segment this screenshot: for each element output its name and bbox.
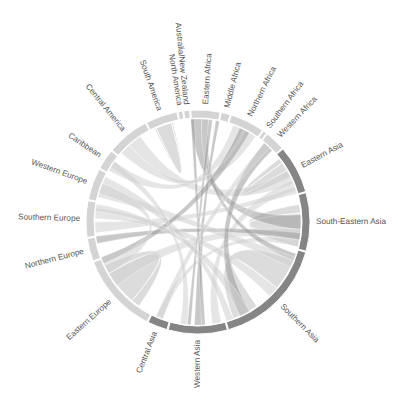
region-segment-north-america xyxy=(178,111,184,120)
region-label-eastern-asia: Eastern Asia xyxy=(300,140,345,170)
region-segment-southern-europe xyxy=(86,201,96,238)
region-label-caribbean: Caribbean xyxy=(67,131,104,160)
region-segment-eastern-africa xyxy=(191,110,220,120)
region-label-central-asia: Central Asia xyxy=(135,330,160,375)
region-segment-australia-new-zealand xyxy=(184,110,190,119)
region-label-southern-europe: Southern Europe xyxy=(18,212,81,223)
region-label-central-america: Central America xyxy=(84,82,128,133)
region-label-middle-africa: Middle Africa xyxy=(223,61,243,109)
region-label-south-america: South America xyxy=(138,59,164,113)
chord-diagram: South AmericaNorth AmericaAustralia/New … xyxy=(0,0,398,412)
region-label-southern-asia: Southern Asia xyxy=(279,302,322,345)
region-label-western-asia: Western Asia xyxy=(193,340,202,389)
region-label-western-europe: Western Europe xyxy=(30,157,89,186)
region-label-northern-europe: Northern Europe xyxy=(24,247,85,271)
chord-diagram-svg: South AmericaNorth AmericaAustralia/New … xyxy=(0,0,398,412)
region-label-northern-africa: Northern Africa xyxy=(246,65,278,118)
chords-layer xyxy=(95,119,301,325)
region-label-eastern-europe: Eastern Europe xyxy=(65,297,114,342)
region-segment-middle-africa xyxy=(220,112,231,122)
region-label-south-eastern-asia: South-Eastern Asia xyxy=(316,217,387,226)
region-label-eastern-africa: Eastern Africa xyxy=(201,53,213,105)
